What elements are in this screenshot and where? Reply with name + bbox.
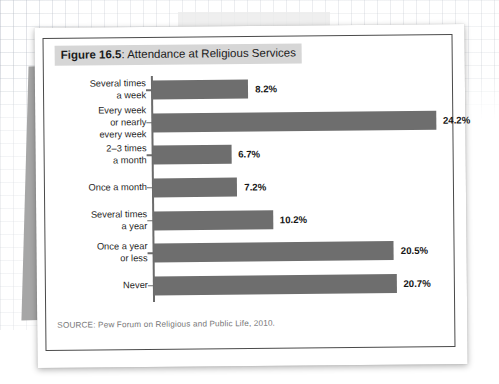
bar-value-label: 8.2% (255, 84, 277, 95)
figure-title: Figure 16.5: Attendance at Religious Ser… (55, 43, 302, 66)
screenshot-stage: Figure 16.5: Attendance at Religious Ser… (0, 0, 499, 384)
bar-row: Several times a week8.2% (55, 71, 443, 107)
category-label: Once a month (55, 182, 147, 195)
category-label: Several times a year (55, 209, 147, 234)
bar-row: Never20.7% (57, 267, 445, 303)
source-note: SOURCE: Pew Forum on Religious and Publi… (57, 319, 275, 330)
bar (153, 241, 393, 262)
category-label: 2–3 times a month (55, 144, 147, 169)
bar-value-label: 24.2% (443, 114, 470, 125)
figure-number: Figure 16.5 (61, 48, 122, 61)
figure-title-text: : Attendance at Religious Services (121, 47, 296, 61)
category-label: Every week or nearly every week (54, 105, 146, 142)
bar-row: Several times a year10.2% (56, 202, 444, 238)
bar-row: 2–3 times a month6.7% (55, 136, 443, 172)
bar-value-label: 7.2% (244, 181, 266, 192)
bar-row: Every week or nearly every week24.2% (55, 104, 443, 140)
category-label: Several times a week (54, 78, 146, 103)
bar-value-label: 20.7% (403, 278, 430, 289)
bar (152, 80, 248, 100)
bar (153, 178, 238, 198)
bar-rows-container: Several times a week8.2%Every week or ne… (55, 71, 443, 75)
bar-value-label: 6.7% (238, 149, 260, 160)
figure-frame: Figure 16.5: Attendance at Religious Ser… (43, 34, 456, 351)
bar (153, 145, 232, 165)
bar-row: Once a year or less20.5% (56, 234, 444, 270)
category-label: Once a year or less (55, 241, 147, 266)
bar (153, 210, 273, 230)
category-label: Never (56, 280, 148, 293)
bar (154, 274, 397, 295)
bar-value-label: 10.2% (280, 214, 307, 225)
bar-row: Once a month7.2% (56, 169, 444, 205)
bar-chart-plot-area: Several times a week8.2%Every week or ne… (55, 71, 445, 305)
bar-value-label: 20.5% (401, 245, 428, 256)
bar (152, 111, 436, 133)
